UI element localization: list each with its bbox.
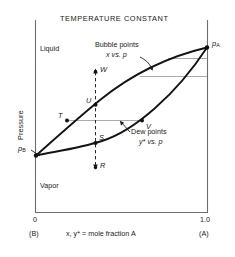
point-label-s: S bbox=[99, 134, 104, 141]
x-tick-label-left: 0 bbox=[33, 216, 37, 223]
region-label-vapor: Vapor bbox=[40, 182, 59, 189]
label-pa-subscript: A bbox=[216, 42, 220, 48]
point-label-v: V bbox=[146, 123, 151, 130]
annotation-dew-points-line2: y* vs. p bbox=[139, 138, 163, 145]
marker-point-u bbox=[94, 103, 98, 107]
chart-title: TEMPERATURE CONSTANT bbox=[60, 15, 168, 22]
marker-point-pb bbox=[34, 153, 38, 157]
point-label-w: W bbox=[100, 66, 107, 73]
marker-point-pa bbox=[205, 45, 209, 49]
label-pressure-pure-a: pA bbox=[212, 40, 220, 48]
corner-label-left: (B) bbox=[29, 230, 39, 237]
label-pb-subscript: B bbox=[22, 147, 26, 153]
dew-point-curve bbox=[36, 48, 207, 156]
annotation-bubble-points-line2: x vs. p bbox=[106, 51, 127, 58]
marker-point-s bbox=[94, 141, 98, 145]
marker-point-w bbox=[94, 70, 97, 73]
marker-point-r bbox=[94, 166, 97, 169]
marker-point-v bbox=[140, 119, 144, 123]
corner-label-right: (A) bbox=[199, 230, 209, 237]
x-axis-label: x, y* = mole fraction A bbox=[66, 230, 136, 237]
bubble-point-curve bbox=[36, 48, 207, 156]
point-label-u: U bbox=[86, 97, 91, 104]
point-label-t: T bbox=[58, 112, 63, 119]
annotation-bubble-points-line1: Bubble points bbox=[95, 41, 139, 48]
marker-point-t bbox=[65, 119, 69, 123]
region-label-liquid: Liquid bbox=[40, 45, 59, 52]
pxy-phase-diagram: TEMPERATURE CONSTANT Liquid Vapor Pressu… bbox=[0, 0, 235, 257]
point-label-r: R bbox=[100, 162, 105, 169]
y-axis-label: Pressure bbox=[16, 110, 25, 140]
label-pressure-pure-b: pB bbox=[18, 145, 26, 153]
x-tick-label-right: 1.0 bbox=[200, 216, 210, 223]
